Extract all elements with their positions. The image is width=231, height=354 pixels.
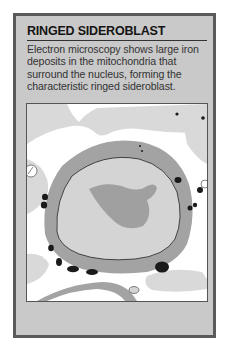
info-card: RINGED SIDEROBLAST Electron microscopy s… <box>13 13 216 338</box>
sideroblast-illustration <box>26 103 208 302</box>
vesicle <box>201 180 207 188</box>
vesicle <box>129 287 139 294</box>
card-title: RINGED SIDEROBLAST <box>27 24 207 41</box>
vesicle <box>27 165 37 177</box>
cytoplasm-region <box>145 270 207 292</box>
cytoplasm-region <box>27 104 207 144</box>
card-description: Electron microscopy shows large iron dep… <box>27 43 211 93</box>
micrograph-drawing <box>27 104 207 301</box>
cytoplasm-region <box>27 254 49 284</box>
